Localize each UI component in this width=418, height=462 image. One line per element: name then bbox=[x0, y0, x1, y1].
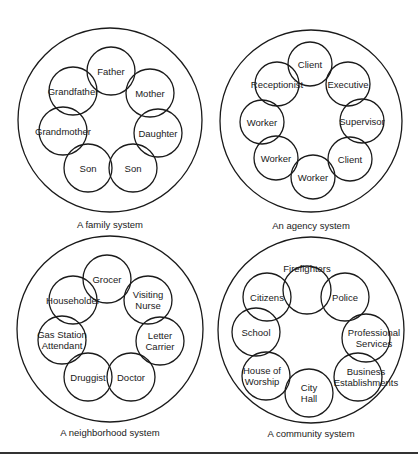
outer-boundary-circle bbox=[18, 28, 202, 212]
member-label: Worker bbox=[261, 153, 291, 164]
member-school: School bbox=[232, 308, 280, 356]
member-house-of-worship: House ofWorship bbox=[242, 352, 290, 400]
member-label: Son bbox=[80, 163, 97, 174]
member-label: Professional bbox=[348, 327, 400, 338]
member-label: Householder bbox=[46, 295, 100, 306]
member-label: Grocer bbox=[92, 274, 121, 285]
panel-neighborhood: GrocerVisitingNurseLetterCarrierDoctorDr… bbox=[17, 236, 203, 438]
member-label: Worship bbox=[245, 376, 280, 387]
member-label: Services bbox=[356, 338, 393, 349]
member-label: House of bbox=[243, 365, 281, 376]
member-label: Receptionist bbox=[251, 79, 304, 90]
panel-community: FirefightersPoliceProfessionalServicesBu… bbox=[218, 237, 404, 439]
member-grandfather: Grandfather bbox=[48, 67, 99, 115]
member-label: Executive bbox=[327, 79, 368, 90]
member-druggist: Druggist bbox=[64, 353, 112, 401]
panel-caption: A neighborhood system bbox=[60, 427, 159, 438]
member-son: Son bbox=[64, 144, 112, 192]
member-label: Attendant bbox=[42, 340, 83, 351]
member-label: Mother bbox=[135, 88, 165, 99]
member-label: City bbox=[301, 382, 318, 393]
member-label: Nurse bbox=[135, 300, 160, 311]
member-label: Gas Station bbox=[37, 329, 87, 340]
member-grandmother: Grandmother bbox=[35, 107, 91, 155]
member-citizens: Citizens bbox=[243, 273, 291, 321]
member-label: Client bbox=[298, 59, 323, 70]
member-label: Doctor bbox=[117, 372, 145, 383]
member-label: Hall bbox=[301, 393, 317, 404]
member-city-hall: CityHall bbox=[285, 369, 333, 417]
member-label: Worker bbox=[247, 117, 277, 128]
member-label: Father bbox=[97, 66, 124, 77]
member-receptionist: Receptionist bbox=[251, 62, 304, 106]
member-firefighters: Firefighters bbox=[283, 263, 331, 315]
member-label: Establishments bbox=[334, 377, 399, 388]
panel-agency: ClientExecutiveSupervisorClientWorkerWor… bbox=[220, 30, 402, 231]
member-label: Firefighters bbox=[283, 263, 331, 274]
member-visiting-nurse: VisitingNurse bbox=[124, 276, 172, 324]
member-label: Citizens bbox=[250, 292, 284, 303]
member-label: Druggist bbox=[70, 372, 106, 383]
member-letter-carrier: LetterCarrier bbox=[136, 317, 184, 365]
member-label: Grandfather bbox=[48, 86, 99, 97]
member-doctor: Doctor bbox=[107, 353, 155, 401]
panel-caption: An agency system bbox=[272, 220, 350, 231]
member-label: Grandmother bbox=[35, 126, 91, 137]
panel-caption: A family system bbox=[77, 219, 143, 230]
member-label: Daughter bbox=[138, 128, 177, 139]
member-label: Son bbox=[125, 163, 142, 174]
member-supervisor: Supervisor bbox=[339, 99, 384, 143]
member-label: Client bbox=[338, 154, 363, 165]
member-label: School bbox=[241, 327, 270, 338]
member-label: Carrier bbox=[145, 341, 174, 352]
member-label: Business bbox=[347, 366, 386, 377]
member-label: Visiting bbox=[133, 289, 163, 300]
member-label: Worker bbox=[298, 172, 328, 183]
member-worker: Worker bbox=[254, 136, 298, 180]
panel-family: FatherMotherDaughterSonSonGrandmotherGra… bbox=[18, 28, 202, 230]
systems-diagram-figure: FatherMotherDaughterSonSonGrandmotherGra… bbox=[0, 0, 418, 462]
panel-caption: A community system bbox=[267, 428, 354, 439]
member-son: Son bbox=[109, 144, 157, 192]
member-business-establishments: BusinessEstablishments bbox=[334, 353, 399, 401]
member-label: Letter bbox=[148, 330, 172, 341]
member-label: Police bbox=[332, 292, 358, 303]
member-label: Supervisor bbox=[339, 116, 384, 127]
